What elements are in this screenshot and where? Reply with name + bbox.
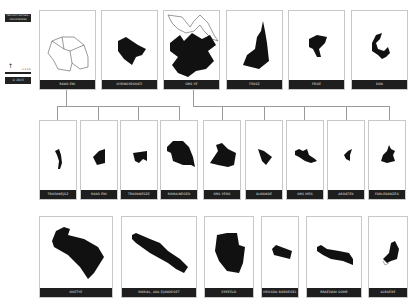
district-label: GYÖNGYÖSHÁTI	[102, 80, 157, 89]
subdistrict-card[interactable]: ORS MÉG	[286, 120, 324, 200]
district-shape	[262, 217, 300, 290]
district-label: EPEÉÉLD	[205, 288, 253, 297]
scale-bar	[5, 72, 31, 74]
district-shape	[161, 121, 199, 192]
district-label: MÁRIAL, AKA ÉJÁNDEGET	[122, 288, 196, 297]
legend-title: TERÜLETI EGYSÉG / VÁROSRÉSZEK	[5, 14, 31, 22]
subdistrict-card[interactable]: RÁKÓ ÉNÍ	[80, 120, 118, 200]
north-arrow-icon: ↑	[8, 63, 13, 69]
district-label: RÓMAINÉGED	[161, 190, 197, 199]
district-card[interactable]: HEGGDA BÁRDÉGEL	[261, 216, 299, 298]
district-label: FÁRLEKÁNZÉG	[369, 190, 405, 199]
connector	[98, 106, 99, 120]
district-label: BRAÉDÁNI SÓMÉ	[307, 288, 361, 297]
district-label: TROPANÉSZE	[121, 190, 157, 199]
district-shape	[307, 217, 363, 290]
district-shape	[289, 11, 346, 82]
connector	[264, 106, 265, 120]
district-label: FEKSZ	[227, 80, 282, 89]
district-card[interactable]: ALBÁÉRÉ	[368, 216, 408, 298]
subdistrict-card[interactable]: FÁRLEKÁNZÉG	[368, 120, 406, 200]
district-label: RÁKÓ ÉNÍ	[81, 190, 117, 199]
scale-label: 0 1 km	[22, 68, 31, 71]
subdistrict-card[interactable]: TROPANÉJSZ	[39, 120, 77, 200]
district-card[interactable]: BRAÉDÁNI SÓMÉ	[306, 216, 362, 298]
district-shape	[205, 217, 255, 290]
connector	[193, 90, 194, 106]
connector	[389, 106, 390, 120]
district-shape	[287, 121, 325, 192]
district-label: HEGGDA BÁRDÉGEL	[262, 288, 298, 297]
district-shape	[369, 121, 407, 192]
district-shape	[40, 217, 114, 290]
district-card[interactable]: GYÖNGYÖSHÁTI	[101, 10, 158, 90]
district-label: FŐGÉ	[289, 80, 344, 89]
district-label: DÓK	[352, 80, 407, 89]
district-card[interactable]: EPEÉÉLD	[204, 216, 254, 298]
connector	[222, 106, 223, 120]
connector	[66, 90, 67, 106]
connector	[57, 106, 179, 107]
subdistrict-card[interactable]: ÓRS YÉRG	[203, 120, 241, 200]
subdistrict-card[interactable]: ÁLMÁNDÉ	[245, 120, 283, 200]
district-shape	[204, 121, 242, 192]
district-card[interactable]: ORS YÉ	[163, 10, 220, 90]
district-card[interactable]: FŐGÉ	[288, 10, 345, 90]
subdistrict-card[interactable]: RÓMAINÉGED	[160, 120, 198, 200]
district-shape	[81, 121, 119, 192]
district-shape	[369, 217, 409, 290]
district-label: ORS YÉ	[164, 80, 219, 89]
district-label: ORS MÉG	[287, 190, 323, 199]
district-shape	[121, 121, 159, 192]
district-shape	[328, 121, 366, 192]
district-label: RÁKÓ ÉNÍ	[40, 80, 95, 89]
district-shape	[122, 217, 198, 290]
connector	[138, 106, 139, 120]
connector	[346, 106, 347, 120]
district-outline-shape	[40, 11, 97, 82]
district-card[interactable]: DÓK	[351, 10, 408, 90]
district-label: ARDÁTÉK	[328, 190, 364, 199]
district-label: ÁLMÁNDÉ	[246, 190, 282, 199]
district-shape	[246, 121, 284, 192]
district-shape	[102, 11, 159, 82]
subdistrict-card[interactable]: TROPANÉSZE	[120, 120, 158, 200]
district-label: TROPANÉJSZ	[40, 190, 76, 199]
district-card[interactable]: FEKSZ	[226, 10, 283, 90]
district-card[interactable]: RÁKÓ ÉNÍ	[39, 10, 96, 90]
connector	[57, 106, 58, 120]
district-label: ÓRS YÉRG	[204, 190, 240, 199]
district-label: ALBÁÉRÉ	[369, 288, 407, 297]
district-shape	[40, 121, 78, 192]
district-shape	[352, 11, 409, 82]
district-shape	[164, 11, 221, 82]
subdistrict-card[interactable]: ARDÁTÉK	[327, 120, 365, 200]
connector	[304, 106, 305, 120]
district-card[interactable]: ÓSETYÉ	[39, 216, 113, 298]
district-card[interactable]: MÁRIAL, AKA ÉJÁNDEGET	[121, 216, 197, 298]
connector	[179, 106, 180, 120]
district-shape	[227, 11, 284, 82]
district-label: ÓSETYÉ	[40, 288, 112, 297]
year-badge: © 2015	[5, 77, 31, 84]
